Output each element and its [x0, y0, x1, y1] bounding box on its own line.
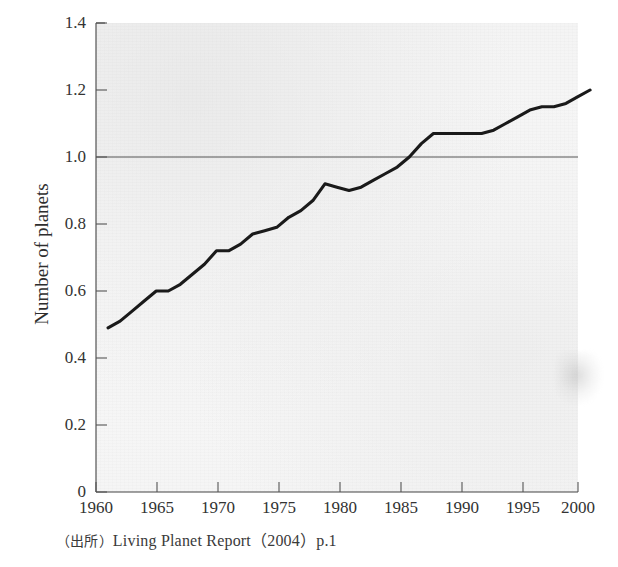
source-caption: （出所）Living Planet Report（2004）p.1 — [56, 527, 337, 551]
x-tick-marks — [96, 482, 578, 492]
x-tick-label-1975: 1975 — [249, 499, 309, 516]
x-tick-label-1980: 1980 — [310, 499, 370, 516]
source-caption-text: Living Planet Report（2004）p.1 — [113, 532, 337, 549]
y-tick-label-1-4: 1.4 — [40, 14, 86, 31]
x-tick-label-1965: 1965 — [127, 499, 187, 516]
y-axis-title: Number of planets — [31, 144, 53, 364]
x-tick-label-1960: 1960 — [66, 499, 126, 516]
x-tick-label-1990: 1990 — [432, 499, 492, 516]
y-tick-marks — [96, 23, 107, 492]
y-tick-label-0-2: 0.2 — [40, 416, 86, 433]
x-tick-label-1970: 1970 — [188, 499, 248, 516]
data-series-line — [108, 90, 590, 328]
line-chart-canvas — [0, 0, 618, 567]
x-tick-label-1985: 1985 — [371, 499, 431, 516]
x-tick-label-2000: 2000 — [548, 499, 608, 516]
axis-spines — [96, 23, 578, 492]
x-tick-label-1995: 1995 — [493, 499, 553, 516]
y-tick-label-1-2: 1.2 — [40, 81, 86, 98]
chart-figure: 1.4 1.2 1.0 0.8 0.6 0.4 0.2 0 1960 1965 … — [0, 0, 618, 567]
source-caption-prefix: （出所） — [56, 533, 113, 549]
